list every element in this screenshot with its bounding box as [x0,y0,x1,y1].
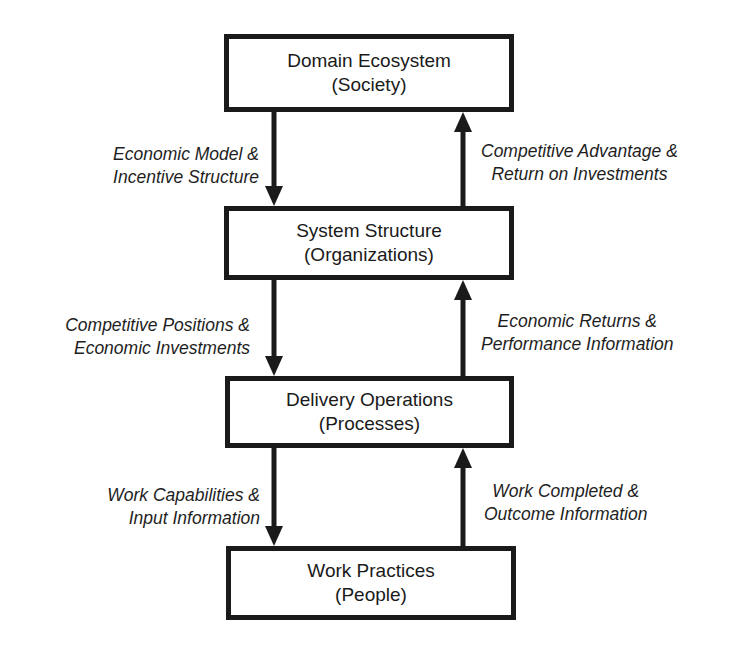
down-flow-label-2: Competitive Positions & Economic Investm… [65,314,250,360]
down-arrow-3 [265,448,283,546]
layer-title: Domain Ecosystem [287,49,451,73]
layer-subtitle: (Society) [332,73,407,97]
layer-subtitle: (People) [335,583,407,607]
up-flow-label-1: Competitive Advantage & Return on Invest… [481,140,678,186]
layer-subtitle: (Processes) [319,412,420,436]
down-flow-label-1: Economic Model & Incentive Structure [113,143,259,189]
diagram-canvas: Domain Ecosystem (Society) System Struct… [0,0,746,657]
layer-box-system-structure: System Structure (Organizations) [224,206,514,280]
layer-subtitle: (Organizations) [304,243,434,267]
down-arrow-1 [265,112,283,206]
up-arrow-1 [454,112,472,206]
down-flow-label-3: Work Capabilities & Input Information [107,484,260,530]
layer-title: System Structure [296,219,442,243]
up-arrow-2 [454,280,472,376]
layer-title: Work Practices [307,559,434,583]
layer-box-work-practices: Work Practices (People) [226,546,516,620]
layer-box-delivery-operations: Delivery Operations (Processes) [225,376,514,448]
up-arrow-3 [454,448,472,546]
up-flow-label-3: Work Completed & Outcome Information [484,480,647,526]
layer-title: Delivery Operations [286,388,453,412]
down-arrow-2 [265,280,283,376]
up-flow-label-2: Economic Returns & Performance Informati… [481,310,674,356]
layer-box-domain-ecosystem: Domain Ecosystem (Society) [224,34,514,112]
